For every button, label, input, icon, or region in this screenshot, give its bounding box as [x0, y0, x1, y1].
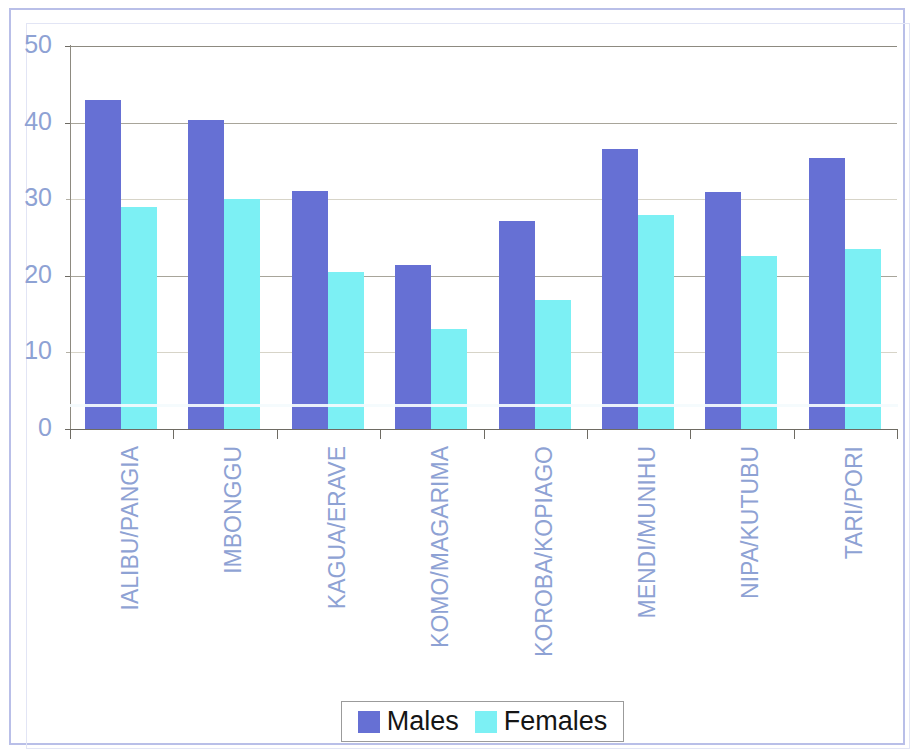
bar-males-6 [705, 192, 741, 429]
bar-females-7 [845, 249, 881, 429]
x-category-label-5: MENDI/MUNIHU [634, 446, 661, 676]
x-category-label-0: IALIBU/PANGIA [117, 446, 144, 676]
bar-males-1 [188, 120, 224, 429]
legend-item-females: Females [475, 708, 608, 735]
bar-males-2 [292, 191, 328, 429]
x-tick-4 [484, 429, 485, 439]
y-axis-tick-label: 30 [6, 185, 52, 210]
bar-males-0 [85, 100, 121, 429]
x-category-label-4: KOROBA/KOPIAGO [531, 446, 558, 676]
x-category-label-6: NIPA/KUTUBU [737, 446, 764, 676]
bar-females-0 [121, 207, 157, 429]
x-tick-3 [380, 429, 381, 439]
grouped-bar-chart: 01020304050 IALIBU/PANGIAIMBONGGUKAGUA/E… [0, 0, 916, 753]
y-axis-tick-label: 10 [6, 338, 52, 363]
scan-artifact-line [70, 404, 898, 407]
bar-males-4 [499, 221, 535, 429]
x-tick-8 [897, 429, 898, 439]
y-axis-tick-label: 50 [6, 32, 52, 57]
legend-swatch-males-icon [358, 711, 380, 733]
x-category-label-7: TARI/PORI [841, 446, 868, 676]
x-tick-2 [277, 429, 278, 439]
bar-females-1 [224, 199, 260, 429]
x-category-label-2: KAGUA/ERAVE [324, 446, 351, 676]
x-tick-7 [794, 429, 795, 439]
legend-item-males: Males [358, 708, 459, 735]
x-tick-6 [690, 429, 691, 439]
bar-females-5 [638, 215, 674, 429]
x-tick-0 [70, 429, 71, 439]
legend-swatch-females-icon [475, 711, 497, 733]
bar-females-4 [535, 300, 571, 429]
x-tick-1 [173, 429, 174, 439]
y-axis-tick-label: 40 [6, 109, 52, 134]
y-axis-tick-label: 20 [6, 262, 52, 287]
x-category-label-3: KOMO/MAGARIMA [427, 446, 454, 676]
bar-males-5 [602, 149, 638, 429]
bar-group-container [70, 46, 897, 429]
bar-females-3 [431, 329, 467, 429]
bar-males-7 [809, 158, 845, 429]
x-tick-5 [587, 429, 588, 439]
x-category-label-1: IMBONGGU [220, 446, 247, 676]
legend-label-males: Males [387, 708, 459, 735]
legend-label-females: Females [504, 708, 608, 735]
y-axis-tick-label: 0 [6, 415, 52, 440]
chart-legend: Males Females [341, 701, 624, 742]
